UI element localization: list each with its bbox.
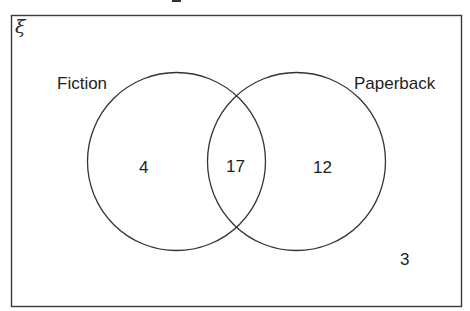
fiction-only-count: 4 [139,158,148,177]
fiction-label: Fiction [57,74,107,93]
paperback-label: Paperback [354,74,436,93]
paperback-only-count: 12 [313,158,332,177]
intersection-count: 17 [226,157,245,176]
neither-count: 3 [400,250,409,269]
universal-set-symbol: ξ [15,15,27,37]
cropped-title-fragment [172,0,181,2]
venn-diagram: ξ Fiction Paperback 4 17 12 3 [0,0,470,311]
